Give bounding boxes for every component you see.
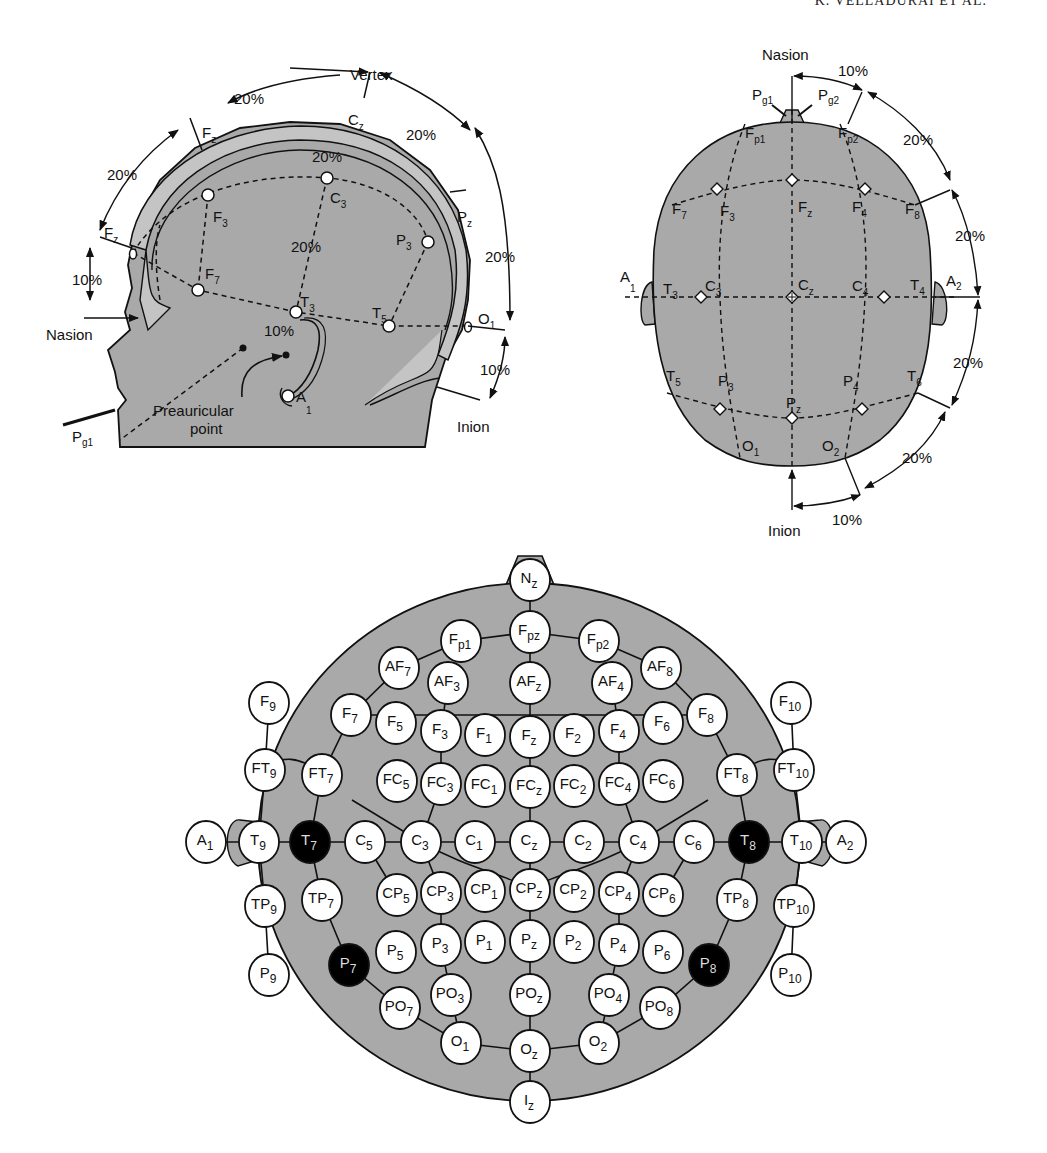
eeg-electrode-figure: Vertex 20% 20% 20% 20% 10% 20% 20% 10% 1… [0, 0, 1047, 1153]
electrode-T10: T10 [782, 821, 822, 863]
electrode-A2: A2 [826, 821, 866, 863]
electrode-CP4: CP4 [599, 872, 639, 914]
label-a2: A2 [946, 272, 962, 292]
electrode-P3 [422, 236, 434, 248]
electrode-FT7: FT7 [302, 754, 342, 796]
label-pg1: Pg1 [72, 428, 94, 448]
electrode-Fpz [130, 249, 137, 259]
electrode-Cz: Cz [510, 821, 550, 863]
electrode-C6: C6 [674, 821, 714, 863]
electrode-FT10: FT10 [774, 749, 814, 791]
pct-label: 10% [264, 322, 294, 339]
electrode-FC5: FC5 [377, 760, 417, 802]
electrode-C4: C4 [619, 821, 659, 863]
right-ear [932, 282, 947, 325]
electrode-CPz: CPz [510, 869, 550, 911]
pct-label: 20% [955, 227, 985, 244]
electrode-TP8: TP8 [717, 879, 757, 921]
electrode-Oz: Oz [510, 1030, 550, 1072]
label-inion: Inion [457, 418, 490, 435]
label-Fpz: Fz [104, 224, 118, 245]
electrode-P5: P5 [376, 931, 416, 973]
pct-label: 20% [107, 166, 137, 183]
pct-label: 10% [838, 62, 868, 79]
electrode-Fpz: Fpz [510, 611, 550, 653]
electrode-FT8: FT8 [717, 754, 757, 796]
electrode-AFz: AFz [510, 662, 550, 704]
electrode-PO3: PO3 [431, 974, 471, 1016]
electrode-AF4: AF4 [592, 662, 632, 704]
electrode-C1: C1 [455, 821, 495, 863]
electrode-TP7: TP7 [302, 879, 342, 921]
electrode-P3: P3 [421, 924, 461, 966]
electrode-F5: F5 [376, 702, 416, 744]
electrode-AF3: AF3 [428, 662, 468, 704]
label-inion: Inion [768, 522, 801, 539]
pct-label: 20% [903, 131, 933, 148]
electrode-CP3: CP3 [421, 872, 461, 914]
electrode-FC2: FC2 [554, 765, 594, 807]
electrode-P1: P1 [465, 921, 505, 963]
label-a1: A1 [620, 268, 636, 294]
electrode-Fp2: Fp2 [579, 620, 619, 662]
electrode-T8: T8 [729, 821, 769, 863]
pct-label: 20% [953, 354, 983, 371]
electrode-AF7: AF7 [379, 647, 419, 689]
electrode-T9: T9 [239, 821, 279, 863]
electrode-TP9: TP9 [245, 885, 285, 927]
side-view-diagram: Vertex 20% 20% 20% 20% 10% 20% 20% 10% 1… [46, 66, 515, 448]
pct-label: 20% [291, 238, 321, 255]
electrode-POz: POz [510, 974, 550, 1016]
pct-label: 10% [480, 361, 510, 378]
ten-ten-electrode-map: NzFpzFp1Fp2AF7AF3AFzAF4AF8F9F7F5F3F1FzF2… [186, 556, 866, 1123]
preauricular-dot [240, 345, 247, 352]
electrode-F9: F9 [249, 682, 289, 724]
electrode-FC1: FC1 [465, 765, 505, 807]
electrode-F6: F6 [643, 702, 683, 744]
electrode-F7 [192, 284, 204, 296]
label-nasion: Nasion [46, 326, 93, 343]
pct-label: 20% [485, 248, 515, 265]
electrode-C3 [321, 172, 333, 184]
electrode-FT9: FT9 [245, 749, 285, 791]
electrode-O2: O2 [579, 1022, 619, 1064]
electrode-PO8: PO8 [640, 987, 680, 1029]
electrode-T7: T7 [290, 821, 330, 863]
pct-label: 20% [902, 449, 932, 466]
preauricular-point-dot [283, 352, 290, 359]
electrode-CP5: CP5 [377, 874, 417, 916]
electrode-F2: F2 [554, 714, 594, 756]
electrode-TP10: TP10 [774, 885, 814, 927]
label-nasion: Nasion [762, 46, 809, 63]
pg1-wire [63, 410, 115, 425]
electrode-PO7: PO7 [380, 987, 420, 1029]
pct-label: 10% [832, 511, 862, 528]
electrode-P9: P9 [249, 954, 289, 996]
electrode-FC6: FC6 [643, 760, 683, 802]
electrode-F3: F3 [421, 710, 461, 752]
label-preauricular: Preauricular [153, 402, 234, 419]
top-view-diagram: Nasion Inion 10% 20% 20% 20% 20% 10% Pg1… [620, 46, 985, 539]
pct-label: 20% [234, 90, 264, 107]
electrode-A1 [282, 390, 294, 402]
label-pg2: Pg2 [818, 86, 840, 106]
electrode-P7: P7 [329, 944, 369, 986]
electrode-FCz: FCz [510, 766, 550, 808]
electrode-P4: P4 [599, 924, 639, 966]
electrode-P10: P10 [771, 954, 811, 996]
label-point: point [190, 420, 223, 437]
electrode-Iz: Iz [510, 1081, 550, 1123]
electrode-O1: O1 [441, 1022, 481, 1064]
electrode-Fz: Fz [510, 716, 550, 758]
electrode-P2: P2 [554, 921, 594, 963]
electrode-F4: F4 [599, 710, 639, 752]
label-pg1: Pg1 [752, 86, 774, 106]
electrode-A1: A1 [186, 821, 226, 863]
electrode-C2: C2 [564, 821, 604, 863]
electrode-AF8: AF8 [641, 647, 681, 689]
electrode-F3 [202, 189, 214, 201]
pct-label: 20% [406, 126, 436, 143]
electrode-FC3: FC3 [421, 763, 461, 805]
electrode-P6: P6 [643, 931, 683, 973]
electrode-PO4: PO4 [589, 974, 629, 1016]
